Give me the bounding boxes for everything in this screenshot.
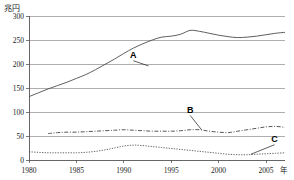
x-tick-label-1990: 1990 [116,166,131,175]
y-tick-labels: 300 250 200 150 100 50 0 [13,12,25,165]
series-label-c: C [271,134,278,144]
x-tick-label-2005: 2005 [259,166,274,175]
annotation-leader-b [190,115,201,129]
y-tick-label-300: 300 [13,12,25,21]
chart-container: 兆円 300 250 200 150 [0,0,294,180]
x-tick-label-1985: 1985 [69,166,84,175]
annotation-leader-c [251,145,275,155]
series-label-b: B [187,105,194,115]
annotation-leader-a [133,61,148,66]
x-tick-label-2000: 2000 [211,166,226,175]
y-tick-label-150: 150 [13,84,25,93]
x-tick-label-1995: 1995 [164,166,179,175]
line-chart: 兆円 300 250 200 150 [0,0,294,180]
x-tick-label-1980: 1980 [22,166,37,175]
series-label-a: A [130,50,137,60]
series-line-c [29,145,285,155]
y-tick-label-100: 100 [13,108,25,117]
y-tick-label-50: 50 [17,132,25,141]
gridlines [29,16,285,136]
series-line-b [48,126,285,133]
y-tick-label-250: 250 [13,36,25,45]
x-tick-labels: 1980 1985 1990 1995 2000 2005 [22,166,274,175]
x-axis-label: 年 [280,165,288,175]
y-tick-label-0: 0 [20,156,24,165]
y-tick-label-200: 200 [13,60,25,69]
